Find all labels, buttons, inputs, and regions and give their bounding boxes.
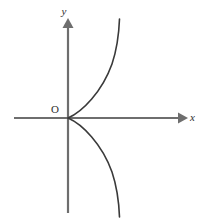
y-axis-arrowhead: [63, 18, 74, 28]
origin-label: O: [51, 103, 59, 115]
parabola-lower-branch: [68, 118, 120, 217]
y-axis-label: y: [61, 5, 67, 17]
x-axis-arrowhead: [178, 113, 188, 124]
coordinate-plane-svg: y x O: [0, 0, 202, 223]
graph-figure: y x O: [0, 0, 202, 223]
parabola-upper-branch: [68, 19, 120, 118]
x-axis-label: x: [189, 111, 195, 123]
